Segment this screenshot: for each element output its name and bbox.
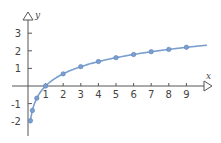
y-axis-arrow-icon [23,12,33,20]
data-point [149,49,153,53]
data-point [131,52,135,56]
y-tick-label: 1 [15,63,21,74]
series-line [30,45,207,123]
axes: x y [12,10,212,136]
series [28,45,207,123]
x-tick-label: 8 [166,89,172,100]
data-point [167,47,171,51]
data-point [43,84,47,88]
x-tick-label: 7 [148,89,154,100]
x-tick-label: 6 [130,89,136,100]
y-tick-label: 3 [15,28,21,39]
chart: x y 123456789-2-1123 [0,0,221,143]
data-point [61,72,65,76]
x-tick-label: 5 [113,89,119,100]
data-point [114,55,118,59]
x-tick-label: 1 [42,89,48,100]
data-point [28,118,32,122]
x-tick-label: 4 [95,89,101,100]
data-point [96,59,100,63]
x-axis-label: x [206,71,211,81]
x-tick-label: 9 [183,89,189,100]
y-tick-label: -2 [11,116,21,127]
x-axis-arrow-icon [204,81,212,91]
y-tick-label: -1 [11,99,21,110]
data-point [79,64,83,68]
x-tick-label: 2 [60,89,66,100]
y-axis-label: y [34,10,41,20]
data-point [30,108,34,112]
y-tick-label: 2 [15,46,21,57]
data-point [184,45,188,49]
ticks: 123456789-2-1123 [11,28,190,127]
data-point [35,96,39,100]
x-tick-label: 3 [78,89,84,100]
